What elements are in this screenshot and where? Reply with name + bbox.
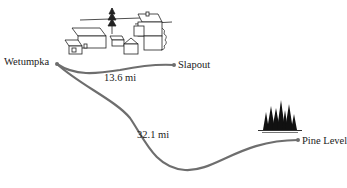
origin-label: Wetumpka — [4, 57, 49, 68]
town-houses-icon — [65, 8, 172, 54]
slapout-label: Slapout — [178, 60, 210, 71]
route-wetumpka-pinelevel — [57, 64, 298, 170]
pine-trees-icon — [258, 100, 302, 133]
slapout-distance: 13.6 mi — [104, 73, 136, 84]
wetumpka-dot — [55, 62, 59, 66]
pinelevel-dot — [296, 138, 300, 142]
pinelevel-distance: 32.1 mi — [137, 130, 169, 141]
pinelevel-label: Pine Level — [302, 136, 347, 147]
routes — [57, 64, 298, 170]
slapout-dot — [172, 63, 176, 67]
